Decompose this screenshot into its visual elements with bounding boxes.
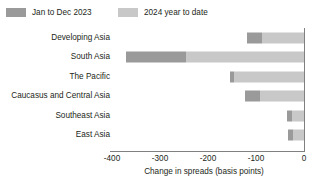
legend-swatch-2024 xyxy=(118,8,138,17)
legend-item-2024[interactable]: 2024 year to date xyxy=(118,6,208,18)
category-label: East Asia xyxy=(76,130,110,140)
category-label: South Asia xyxy=(71,52,110,62)
chart-row: The Pacific xyxy=(0,67,313,87)
chart-row: Developing Asia xyxy=(0,28,313,48)
chart-row: South Asia xyxy=(0,48,313,68)
category-label: Developing Asia xyxy=(51,33,110,43)
x-tick-label: -100 xyxy=(248,154,264,164)
x-tick-label: -400 xyxy=(104,154,120,164)
legend-swatch-2023 xyxy=(6,8,26,17)
category-label: Caucasus and Central Asia xyxy=(11,91,110,101)
x-tick-label: 0 xyxy=(302,154,307,164)
category-label: Southeast Asia xyxy=(55,111,110,121)
stacked-bar[interactable] xyxy=(230,71,304,82)
plot-area: Developing AsiaSouth AsiaThe PacificCauc… xyxy=(0,28,313,152)
chart-row: Southeast Asia xyxy=(0,106,313,126)
bar-chart: Jan to Dec 2023 2024 year to date Develo… xyxy=(0,0,313,180)
bar-segment-2023[interactable] xyxy=(245,91,260,102)
bar-segment-2023[interactable] xyxy=(247,32,262,43)
bar-segment-2024[interactable] xyxy=(292,110,304,121)
bar-segment-2024[interactable] xyxy=(293,130,304,141)
stacked-bar[interactable] xyxy=(126,52,304,63)
x-axis-title-wrap: Change in spreads (basis points) xyxy=(0,167,313,177)
x-axis-title: Change in spreads (basis points) xyxy=(49,167,264,177)
bar-segment-2023[interactable] xyxy=(126,52,186,63)
bar-segment-2024[interactable] xyxy=(186,52,304,63)
chart-legend: Jan to Dec 2023 2024 year to date xyxy=(0,0,313,24)
chart-row: Caucasus and Central Asia xyxy=(0,87,313,107)
bar-segment-2024[interactable] xyxy=(234,71,304,82)
chart-row: East Asia xyxy=(0,126,313,146)
stacked-bar[interactable] xyxy=(247,32,304,43)
bar-segment-2024[interactable] xyxy=(262,32,304,43)
legend-item-2023[interactable]: Jan to Dec 2023 xyxy=(6,6,92,18)
stacked-bar[interactable] xyxy=(287,110,304,121)
stacked-bar[interactable] xyxy=(245,91,304,102)
x-axis-line xyxy=(110,151,305,152)
stacked-bar[interactable] xyxy=(288,130,304,141)
category-label: The Pacific xyxy=(70,72,111,82)
x-tick-label: -200 xyxy=(200,154,216,164)
bar-segment-2024[interactable] xyxy=(260,91,304,102)
legend-label-2024: 2024 year to date xyxy=(144,8,208,17)
legend-label-2023: Jan to Dec 2023 xyxy=(32,8,92,17)
zero-axis-line xyxy=(304,28,305,152)
x-tick-label: -300 xyxy=(152,154,168,164)
